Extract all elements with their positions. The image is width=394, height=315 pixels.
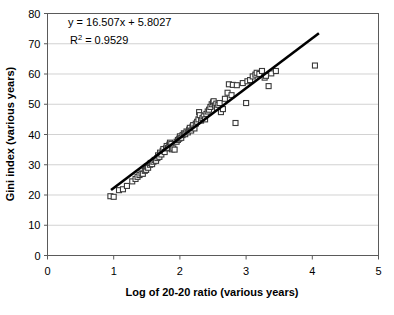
y-tick-label: 30 [28,159,40,171]
r-squared-letter: R [70,34,78,46]
data-point-marker [217,101,222,106]
data-point-marker [233,121,238,126]
y-axis-title: Gini index (various years) [4,66,16,201]
data-point-marker [124,183,129,188]
data-point-marker [259,68,264,73]
y-axis-tick-labels: 01020304050607080 [28,8,40,262]
x-tick-label: 1 [111,265,117,277]
y-tick-label: 80 [28,8,40,20]
y-tick-label: 50 [28,98,40,110]
data-point-marker [244,101,249,106]
y-tick-label: 20 [28,189,40,201]
x-tick-label: 0 [44,265,50,277]
y-tick-label: 60 [28,68,40,80]
data-point-marker [266,84,271,89]
regression-trend-line [111,33,319,190]
x-tick-label: 5 [375,265,381,277]
r-squared-value: = 0.9529 [85,34,128,46]
trend-line [111,33,319,190]
x-axis-tick-labels: 012345 [44,265,381,277]
scatter-chart: 01020304050607080 012345 y = 16.507x + 5… [0,0,394,315]
data-point-marker [172,147,177,152]
y-tick-label: 40 [28,129,40,141]
x-tick-label: 3 [243,265,249,277]
x-tick-label: 2 [177,265,183,277]
data-point-marker [111,194,116,199]
data-point-marker [312,63,317,68]
data-point-marker [273,68,278,73]
r-squared-exponent: 2 [78,33,82,42]
y-tick-label: 70 [28,38,40,50]
regression-equation-label: y = 16.507x + 5.8027 [68,16,171,28]
data-point-marker [222,96,227,101]
y-tick-label: 0 [34,250,40,262]
data-point-markers [108,63,318,199]
tick-marks [44,14,379,260]
y-tick-label: 10 [28,219,40,231]
chart-canvas: 01020304050607080 012345 y = 16.507x + 5… [0,0,394,315]
x-tick-label: 4 [309,265,315,277]
data-point-marker [234,83,239,88]
x-axis-title: Log of 20-20 ratio (various years) [126,286,299,298]
